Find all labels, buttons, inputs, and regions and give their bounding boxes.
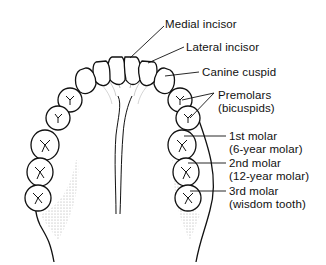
label-subtext: (12-year molar) (229, 170, 309, 183)
label-subtext: (6-year molar) (229, 143, 303, 156)
label-text: 1st molar (229, 130, 303, 143)
leader-lateral-incisor (148, 47, 184, 63)
label-premolars: Premolars (bicuspids) (218, 89, 275, 115)
label-text: 2nd molar (229, 157, 309, 170)
palatal-raphe (115, 96, 132, 214)
label-subtext: (wisdom tooth) (229, 198, 306, 211)
tooth-canine-left (76, 68, 97, 94)
label-text: Canine cuspid (202, 66, 276, 78)
label-canine-cuspid: Canine cuspid (202, 66, 276, 79)
label-text: Premolars (218, 89, 275, 102)
label-third-molar: 3rd molar (wisdom tooth) (229, 185, 306, 211)
label-text: Medial incisor (165, 18, 237, 30)
label-lateral-incisor: Lateral incisor (186, 41, 259, 54)
dental-arch-diagram: Medial incisor Lateral incisor Canine cu… (0, 0, 326, 265)
tooth-canine-right (154, 68, 175, 94)
label-subtext: (bicuspids) (218, 102, 275, 115)
leader-premolars-2 (190, 93, 214, 118)
label-second-molar: 2nd molar (12-year molar) (229, 157, 309, 183)
label-text: 3rd molar (229, 185, 306, 198)
leader-medial-incisor (130, 26, 164, 58)
label-text: Lateral incisor (186, 41, 259, 53)
label-first-molar: 1st molar (6-year molar) (229, 130, 303, 156)
label-medial-incisor: Medial incisor (165, 18, 237, 31)
